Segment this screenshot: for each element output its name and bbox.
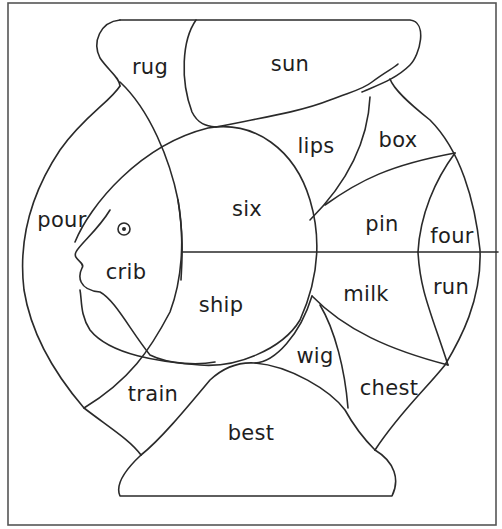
- box-pin-divider: [325, 153, 455, 205]
- region-six: six: [232, 197, 262, 221]
- bowl-rim-left: [97, 20, 120, 86]
- region-pin: pin: [365, 212, 398, 236]
- region-crib: crib: [106, 260, 147, 284]
- region-train: train: [128, 382, 178, 406]
- region-pour: pour: [37, 208, 86, 232]
- fish-mouth: [75, 210, 215, 364]
- fishbowl-drawing: [0, 0, 502, 529]
- fishbowl-diagram: rug sun lips box pour six pin four crib …: [0, 0, 502, 529]
- fish-eye-pupil: [122, 227, 126, 231]
- region-chest: chest: [360, 376, 418, 400]
- run-divider: [418, 252, 448, 365]
- region-rug: rug: [132, 55, 168, 79]
- rug-pour-divider: [120, 82, 182, 280]
- rug-sun-divider: [184, 20, 216, 127]
- region-lips: lips: [297, 134, 334, 158]
- lips-box-divider: [310, 97, 370, 220]
- region-sun: sun: [271, 52, 309, 76]
- region-run: run: [433, 275, 469, 299]
- bowl-base: [119, 450, 396, 496]
- fish-gill: [84, 200, 182, 408]
- region-best: best: [228, 421, 275, 445]
- region-wig: wig: [296, 344, 333, 368]
- region-box: box: [379, 128, 418, 152]
- fish-body: [75, 127, 317, 366]
- region-ship: ship: [199, 293, 244, 317]
- region-milk: milk: [343, 282, 389, 306]
- region-four: four: [430, 224, 473, 248]
